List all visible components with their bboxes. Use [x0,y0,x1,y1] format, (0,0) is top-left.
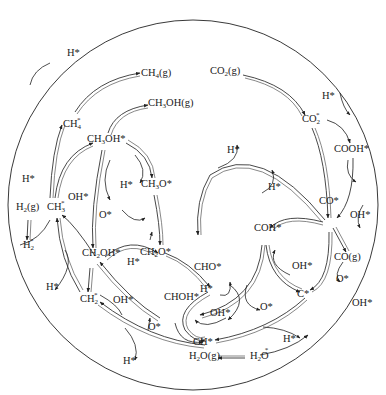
reagent-h-star: H* [22,173,35,184]
reagent-h-star: H* [268,181,281,192]
edge-h2g-h2s [27,220,28,240]
reagent-labels: H* H* H* H* H* H* H* H* H* H* H* OH* OH*… [22,47,372,366]
label-choh: CHOH* [164,291,199,302]
reagent-o-star: O* [336,273,349,284]
label-cooh: COOH* [334,143,369,154]
label-cho: CHO* [194,261,221,272]
label-coh: COH* [254,222,281,233]
label-h2os: H2O* [250,346,269,363]
reagent-oh-star: OH* [350,209,370,220]
edge-ch3-ch3oh [55,143,93,198]
edge-coh-choh [200,245,262,315]
reaction-network-diagram: CO2(g) CO2* COOH* CO* CO(g) COH* CHO* CH… [0,0,386,395]
label-ch3s: CH3* [47,199,66,214]
label-ch4g: CH4(g) [141,67,172,80]
label-ch2o: CH2O* [140,246,171,259]
reagent-h-star: H* [200,283,213,294]
reagent-h-star: H* [227,144,240,155]
edge-ch4s-ch4g [75,73,140,112]
label-h2s: H2* [23,237,35,252]
label-ch3ohg: CH3OH(g) [148,97,194,110]
reagent-h-star: H* [120,179,133,190]
label-co2s: CO2* [302,111,321,126]
label-cs: C* [297,288,309,299]
label-ch3o: CH3O* [141,178,172,191]
label-cog: CO(g) [334,251,361,263]
label-chs: CH* [193,336,213,347]
reagent-oh-star: OH* [352,297,372,308]
edge-choh-ch2oh [100,262,160,318]
species-labels: CO2(g) CO2* COOH* CO* CO(g) COH* CHO* CH… [16,65,369,363]
reagent-o-star: O* [148,321,161,332]
edge-ch2-ch3 [57,218,80,292]
reagent-o-star: O* [99,209,112,220]
label-h2g: H2(g) [16,201,40,214]
diagram-svg: CO2(g) CO2* COOH* CO* CO(g) COH* CHO* CH… [0,0,386,395]
label-co2g: CO2(g) [210,65,241,78]
reagent-h-star: H* [67,47,80,58]
label-ch4s: CH4* [63,116,82,131]
edge-co-c [310,232,329,290]
edge-co2g-co2s [243,75,305,115]
reagent-h-star: H* [322,90,335,101]
reagent-h-star: H* [46,281,59,292]
reagent-oh-star: OH* [210,307,230,318]
label-co: CO* [319,195,339,206]
reagent-h-star: H* [127,256,140,267]
edge-ch3o-ch2o [154,195,160,245]
reagent-oh-star: OH* [68,191,88,202]
edge-ch2oh-ch2 [88,268,90,292]
edge-co2s-cooh [327,120,350,143]
reagent-h-star: H* [123,355,136,366]
reagent-oh-star: OH* [113,294,133,305]
label-h2og: H2O(g) [189,350,220,363]
reagent-oh-star: OH* [292,260,312,271]
label-ch2s: CH2* [80,291,99,306]
reagent-o-star: O* [260,301,273,312]
edge-co-cog [333,228,346,252]
reagent-h-star: H* [283,333,296,344]
label-ch2oh: CH2OH* [82,247,121,260]
label-ch3oh: CH3OH* [87,133,126,146]
